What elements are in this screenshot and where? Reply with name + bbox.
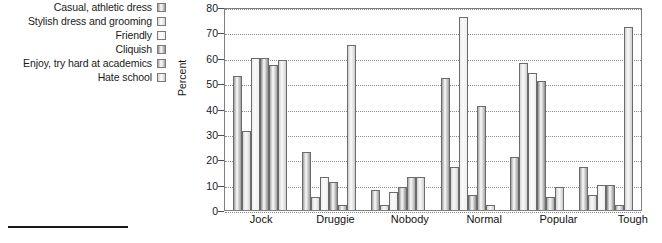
legend-item[interactable]: Casual, athletic dress: [0, 0, 166, 14]
bar-group: [225, 9, 294, 210]
plot-box: [224, 8, 642, 211]
bar: [311, 197, 320, 210]
legend-item[interactable]: Friendly: [0, 28, 166, 42]
y-axis-tick-label: 10: [206, 180, 218, 192]
legend-item[interactable]: Enjoy, try hard at academics: [0, 56, 166, 70]
legend-swatch: [157, 3, 166, 12]
bar-group: [433, 9, 502, 210]
bar: [597, 185, 606, 210]
bar: [624, 27, 633, 210]
legend-item-label: Casual, athletic dress: [54, 0, 152, 14]
bar: [398, 187, 407, 210]
legend-swatch: [157, 31, 166, 40]
y-axis-tick-label: 60: [206, 53, 218, 65]
bar: [329, 182, 338, 210]
x-axis-tick-label: Jock: [224, 213, 298, 225]
bar: [450, 167, 459, 210]
legend-item[interactable]: Cliquish: [0, 42, 166, 56]
legend-item-label: Enjoy, try hard at academics: [23, 56, 152, 70]
bar: [347, 45, 356, 210]
bar: [302, 152, 311, 210]
bar: [606, 185, 615, 210]
y-axis-tick-label: 20: [206, 154, 218, 166]
legend-item-label: Hate school: [98, 70, 152, 84]
bar: [233, 76, 242, 210]
bar: [389, 192, 398, 210]
bar: [528, 73, 537, 210]
y-axis-tick-label: 30: [206, 129, 218, 141]
legend-item[interactable]: Hate school: [0, 70, 166, 84]
bar: [519, 63, 528, 210]
bar: [510, 157, 519, 210]
footer-rule: [8, 226, 128, 228]
y-axis-title: Percent: [176, 60, 188, 96]
bar: [459, 17, 468, 210]
y-axis-tick-label: 50: [206, 78, 218, 90]
bar: [441, 78, 450, 210]
bar: [251, 58, 260, 210]
bar: [416, 177, 425, 210]
legend-swatch: [157, 73, 166, 82]
bar: [260, 58, 269, 210]
bar: [537, 81, 546, 210]
y-axis-tick-label: 80: [206, 2, 218, 14]
bar: [242, 131, 251, 210]
legend-item[interactable]: Stylish dress and grooming: [0, 14, 166, 28]
chart-legend: Casual, athletic dressStylish dress and …: [0, 0, 166, 84]
bar: [371, 190, 380, 210]
x-axis-tick-label: Druggie: [298, 213, 372, 225]
x-axis-tick-label: Nobody: [373, 213, 447, 225]
legend-swatch: [157, 59, 166, 68]
legend-swatch: [157, 17, 166, 26]
plot-area: 80706050403020100: [196, 8, 642, 211]
x-axis-tick-label: Normal: [447, 213, 521, 225]
bar-group: [572, 9, 641, 210]
bar: [269, 65, 278, 210]
legend-item-label: Friendly: [115, 28, 152, 42]
bar: [579, 167, 588, 210]
bar: [468, 195, 477, 210]
bar: [477, 106, 486, 210]
bar: [407, 177, 416, 210]
y-axis-tick-mark: [218, 211, 224, 212]
bar-group: [294, 9, 363, 210]
chart-figure: Casual, athletic dressStylish dress and …: [0, 0, 662, 243]
y-axis-tick-label: 70: [206, 27, 218, 39]
bar: [486, 205, 495, 210]
bar: [278, 60, 287, 210]
legend-swatch: [157, 45, 166, 54]
bar: [338, 205, 347, 210]
bar: [615, 205, 624, 210]
bar-groups: [225, 9, 641, 210]
x-axis-tick-label: Tough: [596, 213, 662, 225]
y-axis-tick-label: 40: [206, 104, 218, 116]
bar: [380, 205, 389, 210]
bar: [588, 195, 597, 210]
bar: [555, 187, 564, 210]
bar-group: [502, 9, 571, 210]
bar: [320, 177, 329, 210]
bar: [546, 197, 555, 210]
y-axis-tick-labels: 80706050403020100: [196, 8, 218, 211]
legend-item-label: Stylish dress and grooming: [28, 14, 152, 28]
bar-group: [364, 9, 433, 210]
legend-item-label: Cliquish: [115, 42, 152, 56]
x-axis-tick-label: Popular: [521, 213, 595, 225]
x-axis-tick-labels: JockDruggieNobodyNormalPopularTough: [224, 213, 662, 225]
